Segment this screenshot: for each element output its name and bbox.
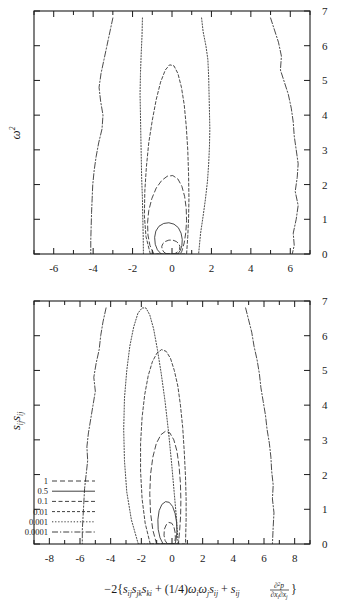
omega-exponent: 2 — [8, 126, 17, 130]
svg-text:∂2p: ∂2p — [274, 581, 284, 591]
contour-level-1 — [164, 522, 175, 544]
y-tick-label: 1 — [322, 213, 328, 225]
svg-text:}: } — [291, 582, 297, 596]
contour-level-0.5 — [158, 502, 177, 544]
bottom-panel-plot: -8-6-4-202468 01234567 10.50.10.010.0010… — [25, 295, 328, 564]
contour-level-0.0001 — [271, 18, 299, 254]
contour-level-0.5 — [155, 223, 183, 254]
omega-symbol: ω — [8, 130, 23, 139]
x-tick-label: 2 — [209, 262, 215, 274]
contour-level-0.0001 — [82, 308, 106, 544]
x-tick-label: 8 — [292, 552, 298, 564]
contour-legend: 10.50.10.010.0010.0001 — [25, 476, 95, 537]
y-tick-label: 3 — [322, 434, 328, 446]
y-tick-label: 0 — [322, 538, 328, 550]
bottom-y-tick-labels: 01234567 — [322, 295, 328, 550]
bottom-y-axis-title: sijsij — [8, 412, 25, 430]
contour-level-1 — [162, 240, 180, 254]
x-tick-label: -6 — [75, 552, 85, 564]
x-axis-title: −2{sijsjkski + (1/4)ωiωjsij + sij ∂2p ∂x… — [104, 581, 296, 600]
y-tick-label: 2 — [322, 179, 328, 191]
panel-sij-sij: -8-6-4-202468 01234567 10.50.10.010.0010… — [0, 293, 339, 615]
top-axis-ticks — [34, 11, 310, 254]
x-tick-label: -2 — [128, 262, 137, 274]
x-tick-label: 2 — [200, 552, 206, 564]
y-tick-label: 6 — [322, 330, 328, 342]
x-tick-label: -6 — [49, 262, 59, 274]
x-tick-label: 4 — [248, 262, 254, 274]
top-y-tick-labels: 01234567 — [322, 5, 328, 260]
y-tick-label: 7 — [322, 295, 328, 307]
y-tick-label: 7 — [322, 5, 328, 17]
x-tick-label: 6 — [261, 552, 267, 564]
svg-text:sijsij: sijsij — [8, 412, 25, 430]
bottom-contour-lines — [82, 308, 274, 544]
contour-level-0.01 — [141, 350, 187, 544]
x-tick-label: 0 — [169, 262, 175, 274]
y-tick-label: 4 — [322, 109, 328, 121]
bottom-axis-ticks — [34, 301, 310, 544]
bottom-plot-frame — [34, 301, 310, 544]
svg-text:ω2: ω2 — [8, 126, 23, 139]
contour-level-0.001 — [140, 18, 143, 254]
svg-text:−2{sijsjkski + (1/4)ωiωjsij +: −2{sijsjkski + (1/4)ωiωjsij + sij — [104, 582, 239, 598]
contour-level-0.001 — [199, 18, 210, 254]
x-tick-label: -4 — [89, 262, 99, 274]
y-tick-label: 5 — [322, 74, 328, 86]
x-tick-label: -4 — [106, 552, 116, 564]
legend-label: 0.1 — [37, 496, 48, 506]
y-tick-label: 0 — [322, 248, 328, 260]
contour-level-0.0001 — [246, 308, 274, 544]
x-tick-label: 6 — [288, 262, 294, 274]
y-tick-label: 6 — [322, 40, 328, 52]
y-tick-label: 5 — [322, 364, 328, 376]
panel-omega-squared: -6-4-20246 01234567 ω2 — [0, 0, 339, 285]
x-tick-label: 4 — [231, 552, 237, 564]
contour-level-0.1 — [148, 176, 187, 254]
contour-level-0.01 — [144, 65, 189, 254]
contour-level-0.001 — [124, 308, 178, 544]
x-tick-label: -8 — [45, 552, 55, 564]
top-panel-plot: -6-4-20246 01234567 — [34, 5, 328, 274]
top-plot-frame — [34, 11, 310, 254]
y-tick-label: 3 — [322, 144, 328, 156]
x-tick-label: -2 — [137, 552, 146, 564]
legend-label: 0.0001 — [25, 527, 48, 537]
legend-label: 0.001 — [29, 517, 48, 527]
legend-label: 0.01 — [33, 507, 48, 517]
pressure-hessian-fraction: ∂2p ∂xi∂xj } — [270, 581, 297, 600]
y-tick-label: 1 — [322, 503, 328, 515]
bottom-x-tick-labels: -8-6-4-202468 — [45, 552, 298, 564]
legend-label: 0.5 — [37, 486, 48, 496]
y-tick-label: 2 — [322, 469, 328, 481]
top-y-axis-title: ω2 — [8, 126, 23, 139]
svg-text:∂xi∂xj: ∂xi∂xj — [270, 590, 288, 600]
top-contour-lines — [91, 18, 298, 254]
top-x-tick-labels: -6-4-20246 — [49, 262, 293, 274]
x-tick-label: 0 — [169, 552, 175, 564]
contour-figure: -6-4-20246 01234567 ω2 -8-6-4-202468 012… — [0, 0, 339, 615]
contour-level-0.0001 — [91, 18, 113, 254]
legend-label: 1 — [44, 476, 48, 486]
y-tick-label: 4 — [322, 399, 328, 411]
